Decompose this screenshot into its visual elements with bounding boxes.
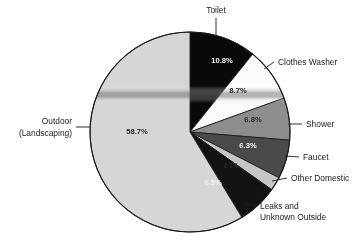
callout-label-shower: Shower bbox=[306, 119, 335, 129]
pie-chart-svg: 10.8% 8.7% 6.8% 6.3% 2.2% 6.5% 58.7% Toi… bbox=[0, 0, 360, 248]
pie-chart-figure: 10.8% 8.7% 6.8% 6.3% 2.2% 6.5% 58.7% Toi… bbox=[0, 0, 360, 248]
slice-value-leaks: 6.5% bbox=[204, 178, 222, 187]
callout-label-clothes-washer: Clothes Washer bbox=[278, 57, 337, 67]
slice-value-clothes-washer: 8.7% bbox=[229, 86, 247, 95]
slice-value-other-domestic: 2.2% bbox=[223, 162, 238, 169]
leader-line-clothes-washer bbox=[264, 62, 274, 69]
callout-label-faucet: Faucet bbox=[303, 152, 329, 162]
callout-label-other-domestic: Other Domestic bbox=[291, 173, 349, 183]
slice-value-toilet: 10.8% bbox=[211, 56, 233, 65]
slice-value-faucet: 6.3% bbox=[239, 141, 257, 150]
callout-label-toilet: Toilet bbox=[206, 5, 226, 15]
slice-value-outdoor: 58.7% bbox=[126, 127, 148, 136]
callout-label-leaks-line2: Unknown Outside bbox=[260, 212, 326, 222]
callout-label-outdoor-line2: (Landscaping) bbox=[19, 128, 72, 138]
callout-label-outdoor-line1: Outdoor bbox=[42, 116, 72, 126]
callout-label-leaks-line1: Leaks and bbox=[260, 201, 299, 211]
slice-value-shower: 6.8% bbox=[244, 115, 262, 124]
scan-smudge-artifact bbox=[90, 86, 290, 103]
